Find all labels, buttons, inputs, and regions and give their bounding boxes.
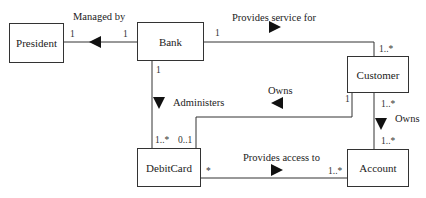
multiplicity: 1..* — [379, 45, 393, 55]
multiplicity: 1..* — [381, 137, 395, 147]
multiplicity: * — [206, 167, 211, 177]
multiplicity: 1..* — [381, 100, 395, 110]
class-name: Bank — [159, 36, 182, 48]
line-provides-service-for — [203, 42, 374, 56]
class-debitcard[interactable]: DebitCard — [137, 148, 201, 187]
association-label: Provides access to — [243, 153, 320, 164]
arrow-left-icon — [271, 97, 283, 109]
multiplicity: 1 — [215, 29, 220, 39]
arrow-right-icon — [271, 164, 283, 176]
multiplicity: 1..* — [155, 136, 169, 146]
association-label: Owns — [395, 114, 420, 125]
class-account[interactable]: Account — [347, 149, 409, 187]
multiplicity: 1 — [345, 95, 350, 105]
class-name: DebitCard — [146, 162, 192, 174]
class-name: Customer — [357, 69, 400, 81]
multiplicity: 1..* — [328, 167, 342, 177]
association-label: Provides service for — [232, 13, 316, 24]
multiplicity: 1 — [156, 66, 161, 76]
class-bank[interactable]: Bank — [137, 22, 204, 61]
arrow-down-icon — [375, 118, 387, 130]
association-label: Owns — [268, 86, 293, 97]
association-label: Administers — [173, 98, 224, 109]
association-label: Managed by — [73, 12, 125, 23]
class-customer[interactable]: Customer — [347, 56, 409, 93]
arrow-left-icon — [89, 36, 101, 48]
class-name: Account — [359, 162, 396, 174]
multiplicity: 1 — [123, 30, 128, 40]
multiplicity: 0..1 — [178, 136, 192, 146]
class-president[interactable]: President — [9, 23, 64, 63]
arrow-down-icon — [153, 97, 165, 109]
multiplicity: 1 — [70, 30, 75, 40]
class-name: President — [16, 37, 57, 49]
